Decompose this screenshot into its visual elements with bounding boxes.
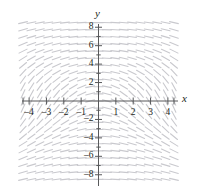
slope-segment <box>171 76 176 83</box>
slope-segment <box>102 129 111 130</box>
slope-segment <box>170 171 179 173</box>
slope-segment <box>161 178 170 180</box>
slope-segment <box>36 50 44 53</box>
slope-segment <box>128 22 137 23</box>
slope-segment <box>170 56 178 61</box>
slope-segment <box>137 120 144 125</box>
slope-segment <box>61 71 69 75</box>
slope-segment <box>163 76 169 83</box>
slope-segment <box>27 29 36 31</box>
slope-segment <box>77 165 86 166</box>
slope-segment <box>61 120 69 125</box>
slope-segment <box>27 178 36 180</box>
slope-segment <box>136 164 145 166</box>
y-axis-tick-label: –8 <box>75 170 94 180</box>
slope-segment <box>35 171 44 173</box>
slope-segment <box>61 43 70 45</box>
slope-segment <box>36 157 45 160</box>
slope-segment <box>170 178 179 180</box>
slope-segment <box>144 36 153 38</box>
slope-segment <box>44 22 53 23</box>
slope-segment <box>145 142 153 145</box>
slope-segment <box>162 63 169 68</box>
slope-segment <box>86 51 95 52</box>
slope-segment <box>44 50 53 53</box>
slope-segment <box>61 50 70 52</box>
slope-segment <box>62 91 69 97</box>
slope-segment <box>170 63 177 69</box>
slope-segment <box>154 70 161 76</box>
slope-segment <box>102 143 111 144</box>
slope-segment <box>102 151 111 152</box>
slope-segment <box>69 36 78 37</box>
slope-segment <box>128 143 137 145</box>
slope-segment <box>153 50 161 53</box>
slope-segment <box>119 143 128 145</box>
slope-segment <box>162 56 170 60</box>
slope-segment <box>69 50 78 51</box>
slope-segment <box>61 36 70 37</box>
slope-segment <box>111 51 120 52</box>
slope-segment <box>36 134 44 139</box>
slope-segment <box>44 43 53 45</box>
slope-segment <box>44 29 53 31</box>
slope-segment <box>27 22 36 24</box>
slope-segment <box>61 84 68 90</box>
slope-segment <box>20 63 27 69</box>
slope-segment <box>69 71 77 74</box>
slope-segment <box>128 71 136 75</box>
slope-segment <box>119 29 128 30</box>
slope-segment <box>136 50 145 52</box>
slope-segment <box>161 164 170 167</box>
slope-segment <box>29 83 34 91</box>
slope-segment <box>19 141 27 146</box>
y-axis-tick-label: 8 <box>75 22 94 32</box>
slope-segment <box>27 171 36 173</box>
slope-segment <box>45 70 52 75</box>
slope-segment <box>77 143 86 144</box>
slope-segment <box>44 142 52 145</box>
slope-segment <box>119 172 128 173</box>
slope-segment <box>86 143 95 144</box>
slope-segment <box>53 84 59 90</box>
slope-segment <box>102 122 111 123</box>
x-axis-tick-label: 1 <box>107 108 125 118</box>
slope-segment <box>128 179 137 180</box>
slope-segment <box>37 90 42 98</box>
slope-segment <box>28 134 35 139</box>
slope-segment <box>102 58 111 59</box>
slope-segment <box>111 143 120 144</box>
slope-segment <box>53 120 60 125</box>
slope-segment <box>128 50 137 52</box>
slope-segment <box>44 171 53 173</box>
slope-segment <box>46 90 51 97</box>
slope-segment <box>136 157 145 159</box>
slope-segment <box>19 22 28 24</box>
slope-segment <box>102 86 111 88</box>
slope-segment <box>119 179 128 180</box>
slope-segment <box>136 135 144 139</box>
slope-segment <box>111 29 120 30</box>
slope-segment <box>146 90 151 97</box>
slope-segment <box>52 22 61 23</box>
slope-segment <box>162 69 169 75</box>
slope-segment <box>171 126 177 133</box>
slope-segment <box>60 179 69 180</box>
slope-segment <box>120 84 128 89</box>
slope-segment <box>53 70 61 75</box>
slope-segment <box>35 179 44 181</box>
slope-segment <box>119 71 127 74</box>
slope-segment <box>145 57 153 60</box>
slope-segment <box>19 35 28 38</box>
slope-segment <box>61 135 69 138</box>
slope-segment <box>86 72 95 73</box>
slope-segment <box>52 179 61 180</box>
slope-segment <box>128 77 136 82</box>
slope-segment <box>29 119 35 126</box>
slope-segment <box>29 90 33 98</box>
slope-segment <box>153 142 161 146</box>
slope-segment <box>27 36 36 39</box>
slope-segment <box>111 121 120 124</box>
slope-segment <box>44 134 52 138</box>
slope-segment <box>119 128 127 131</box>
